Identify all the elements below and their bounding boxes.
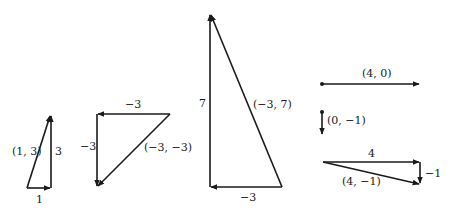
label-resultant: (−3, 7)	[253, 98, 292, 111]
label-horizontal: −3	[240, 191, 256, 204]
triangle-neg3-7: −3 7 (−3, 7)	[199, 15, 292, 204]
single-vector-4-0: (4, 0)	[320, 67, 419, 86]
label-resultant: (1, 3)	[12, 145, 42, 158]
label-vector: (4, 0)	[362, 67, 392, 80]
label-vector: (0, −1)	[327, 114, 366, 127]
label-horizontal: −3	[125, 98, 141, 111]
label-horizontal: 4	[368, 147, 375, 160]
label-horizontal: 1	[36, 193, 43, 206]
label-vertical: −1	[425, 167, 441, 180]
single-vector-0-neg1: (0, −1)	[320, 110, 366, 134]
label-resultant: (−3, −3)	[144, 141, 192, 154]
label-vertical: 7	[199, 97, 206, 110]
label-resultant: (4, −1)	[342, 175, 381, 188]
vector-diagram: 1 3 (1, 3) −3 −3 (−3, −3) −3 7 (−3, 7) (…	[0, 0, 452, 209]
label-vertical: −3	[80, 140, 96, 153]
triangle-4-neg1: 4 −1 (4, −1)	[323, 147, 441, 188]
label-vertical: 3	[55, 145, 62, 158]
triangle-1-3: 1 3 (1, 3)	[12, 116, 62, 206]
triangle-neg3-neg3: −3 −3 (−3, −3)	[80, 98, 192, 186]
